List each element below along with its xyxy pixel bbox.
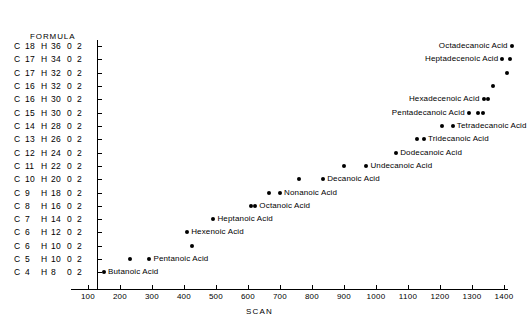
data-point — [190, 244, 194, 248]
formula-part: 0 — [67, 134, 77, 144]
formula-part: 2 — [77, 134, 87, 144]
x-axis-tick — [280, 285, 281, 289]
y-axis-tick — [98, 206, 102, 207]
formula-part: H — [38, 174, 51, 184]
formula-part: 14 — [25, 121, 38, 131]
formula-part: 0 — [67, 81, 77, 91]
x-axis-tick-label: 1000 — [359, 292, 393, 301]
x-axis-tick-label: 800 — [295, 292, 329, 301]
formula-part: C — [14, 214, 25, 224]
formula-part: 18 — [25, 41, 38, 51]
formula-part: C — [14, 254, 25, 264]
formula-row: C15H3002 — [14, 107, 94, 118]
formula-row: C6H1002 — [14, 240, 94, 251]
x-axis-tick — [504, 285, 505, 289]
formula-part: C — [14, 121, 25, 131]
formula-part: 15 — [25, 108, 38, 118]
data-point — [342, 164, 346, 168]
data-point-label: Octadecanoic Acid — [439, 41, 512, 50]
x-axis-tick-label: 100 — [71, 292, 105, 301]
data-point — [440, 124, 444, 128]
formula-part: 2 — [77, 161, 87, 171]
formula-part: C — [14, 94, 25, 104]
formula-part: H — [38, 188, 51, 198]
formula-part: 34 — [51, 54, 67, 64]
formula-part: C — [14, 68, 25, 78]
y-axis-tick — [98, 139, 102, 140]
y-axis-tick — [98, 232, 102, 233]
formula-part: 0 — [67, 174, 77, 184]
formula-part: 32 — [51, 81, 67, 91]
formula-part: 0 — [67, 254, 77, 264]
formula-row: C16H3002 — [14, 94, 94, 105]
y-axis-tick — [98, 113, 102, 114]
formula-part: 2 — [77, 241, 87, 251]
formula-part: H — [38, 68, 51, 78]
y-axis-tick — [98, 153, 102, 154]
formula-part: 9 — [25, 188, 38, 198]
formula-row: C14H2802 — [14, 120, 94, 131]
formula-part: H — [38, 121, 51, 131]
formula-row: C17H3202 — [14, 67, 94, 78]
x-axis-tick — [120, 285, 121, 289]
data-point — [297, 177, 301, 181]
y-axis-tick — [98, 73, 102, 74]
x-axis-line — [71, 289, 508, 290]
formula-row: C5H1002 — [14, 254, 94, 265]
formula-part: H — [38, 227, 51, 237]
formula-part: 2 — [77, 148, 87, 158]
formula-part: 6 — [25, 227, 38, 237]
formula-part: 17 — [25, 68, 38, 78]
formula-row: C11H2202 — [14, 160, 94, 171]
formula-part: 0 — [67, 227, 77, 237]
formula-row: C13H2602 — [14, 134, 94, 145]
formula-part: 0 — [67, 108, 77, 118]
data-point — [505, 71, 509, 75]
formula-part: 11 — [25, 161, 38, 171]
formula-part: 28 — [51, 121, 67, 131]
x-axis-tick — [248, 285, 249, 289]
formula-part: 12 — [25, 148, 38, 158]
y-axis-tick — [98, 179, 102, 180]
formula-part: 2 — [77, 94, 87, 104]
formula-part: 10 — [25, 174, 38, 184]
formula-part: C — [14, 54, 25, 64]
formula-part: 22 — [51, 161, 67, 171]
formula-row: C17H3402 — [14, 54, 94, 65]
formula-part: H — [38, 54, 51, 64]
formula-part: 10 — [51, 241, 67, 251]
y-axis-tick — [98, 59, 102, 60]
data-point-label: Heptanoic Acid — [213, 214, 272, 223]
formula-part: 13 — [25, 134, 38, 144]
data-point — [481, 111, 485, 115]
x-axis-tick — [440, 285, 441, 289]
formula-part: 26 — [51, 134, 67, 144]
data-point-label: Decanoic Acid — [323, 174, 380, 183]
formula-row: C16H3202 — [14, 80, 94, 91]
formula-part: 2 — [77, 81, 87, 91]
formula-part: 2 — [77, 188, 87, 198]
formula-part: C — [14, 161, 25, 171]
y-axis-tick — [98, 246, 102, 247]
x-axis-tick — [216, 285, 217, 289]
formula-part: 8 — [51, 267, 67, 277]
formula-part: H — [38, 108, 51, 118]
formula-part: 2 — [77, 214, 87, 224]
formula-part: 2 — [77, 254, 87, 264]
formula-part: 7 — [25, 214, 38, 224]
data-point-label: Dodecanoic Acid — [396, 148, 462, 157]
formula-row: C12H2402 — [14, 147, 94, 158]
formula-part: 0 — [67, 214, 77, 224]
formula-part: 2 — [77, 201, 87, 211]
x-axis-tick — [344, 285, 345, 289]
formula-part: C — [14, 148, 25, 158]
formula-part: C — [14, 108, 25, 118]
formula-part: 0 — [67, 54, 77, 64]
formula-part: 0 — [67, 241, 77, 251]
x-axis-tick — [408, 285, 409, 289]
formula-part: 2 — [77, 68, 87, 78]
x-axis-tick — [152, 285, 153, 289]
formula-row: C8H1602 — [14, 200, 94, 211]
formula-part: C — [14, 267, 25, 277]
